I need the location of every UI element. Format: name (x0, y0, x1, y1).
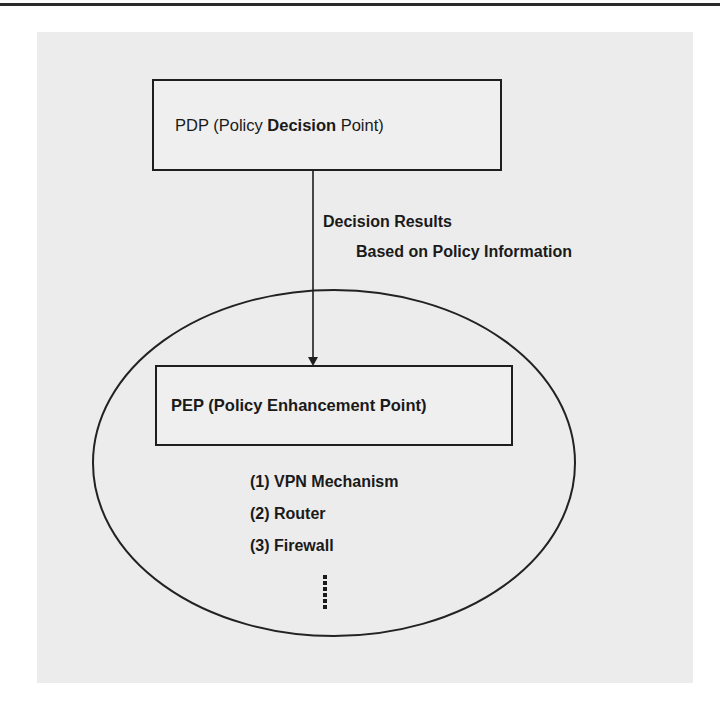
pep-node: PEP (Policy Enhancement Point) (155, 365, 513, 446)
pep-example-router: (2) Router (250, 504, 398, 536)
pdp-label: PDP (Policy Decision Point) (175, 116, 384, 135)
edge-label-line-2: Based on Policy Information (356, 243, 572, 261)
pep-scope-ellipse (93, 290, 575, 636)
edge-label-line-1: Decision Results (323, 213, 452, 231)
pep-example-list: (1) VPN Mechanism (2) Router (3) Firewal… (250, 472, 398, 568)
pep-label: PEP (Policy Enhancement Point) (171, 396, 427, 415)
pep-example-firewall: (3) Firewall (250, 536, 398, 568)
pep-example-vpn: (1) VPN Mechanism (250, 472, 398, 504)
vertical-ellipsis-icon (323, 575, 327, 611)
pdp-node: PDP (Policy Decision Point) (152, 79, 502, 171)
